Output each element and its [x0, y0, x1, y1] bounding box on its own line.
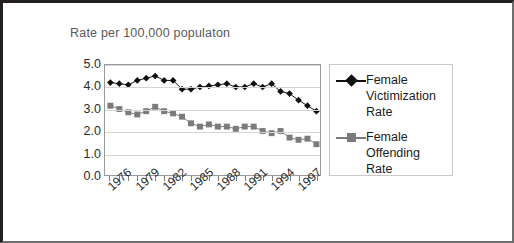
chart-figure: Rate per 100,000 populaton 5.04.03.02.01… [0, 0, 514, 243]
data-point-diamond [143, 75, 150, 82]
data-point-diamond [152, 73, 159, 80]
legend-label-offending: Female Offending Rate [366, 129, 446, 177]
y-axis-tick-label: 2.0 [84, 125, 101, 138]
legend-marker-square-icon [336, 130, 366, 146]
data-point-square [313, 141, 319, 147]
data-point-square [215, 124, 221, 130]
data-point-square [206, 121, 212, 127]
data-point-square [170, 110, 176, 116]
legend-label-victimization: Female Victimization Rate [366, 72, 446, 120]
gridline [105, 155, 320, 156]
data-point-square [251, 124, 257, 130]
legend-item-offending: Female Offending Rate [336, 129, 446, 177]
data-point-square [287, 135, 293, 141]
gridline [105, 65, 320, 66]
data-point-diamond [161, 77, 168, 84]
y-axis-tick-label: 5.0 [84, 58, 101, 71]
data-point-square [188, 120, 194, 126]
data-point-square [304, 136, 310, 142]
plot-area [104, 64, 321, 176]
data-point-square [296, 137, 302, 143]
series-layer [105, 65, 320, 175]
gridline [105, 87, 320, 88]
y-axis: 5.04.03.02.01.00.0 [65, 56, 101, 184]
y-axis-tick-label: 3.0 [84, 103, 101, 116]
legend-item-victimization: Female Victimization Rate [336, 72, 446, 120]
series-line-diamond [110, 76, 316, 111]
data-point-square [107, 103, 113, 109]
data-point-diamond [223, 80, 230, 87]
legend-marker-diamond-icon [336, 73, 366, 89]
chart-title: Rate per 100,000 populaton [70, 26, 230, 40]
gridline [105, 132, 320, 133]
data-point-square [233, 126, 239, 132]
x-axis-labels: 19761979198219851988199119941997 [104, 183, 344, 231]
data-point-diamond [134, 77, 141, 84]
chart-legend: Female Victimization Rate Female Offendi… [329, 64, 453, 176]
series-line-square [110, 106, 316, 145]
data-point-square [269, 130, 275, 136]
data-point-square [179, 114, 185, 120]
gridline [105, 110, 320, 111]
data-point-square [224, 124, 230, 130]
data-point-diamond [116, 80, 123, 87]
y-axis-tick-label: 1.0 [84, 148, 101, 161]
data-point-diamond [107, 79, 114, 86]
figure-inner: Rate per 100,000 populaton 5.04.03.02.01… [7, 7, 508, 237]
data-point-square [197, 124, 203, 130]
data-point-square [242, 124, 248, 130]
y-axis-tick-label: 4.0 [84, 80, 101, 93]
y-axis-tick-label: 0.0 [84, 170, 101, 183]
data-point-diamond [250, 80, 257, 87]
data-point-square [134, 112, 140, 118]
data-point-diamond [304, 102, 311, 109]
